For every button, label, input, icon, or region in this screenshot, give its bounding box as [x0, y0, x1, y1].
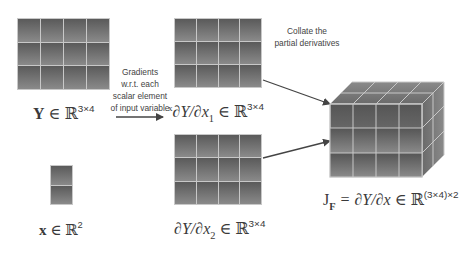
label-jacobian: JF = ∂Y/∂x ∈ ℝ(3×4)×2	[323, 189, 459, 212]
label-in: ∈	[395, 191, 407, 208]
label-expr: = ∂Y/∂x	[340, 191, 391, 208]
label-J-sub: F	[329, 201, 335, 212]
collate-arrow-top	[263, 80, 330, 104]
label-dims: (3×4)×2	[424, 189, 459, 200]
jacobian-cube	[330, 82, 444, 177]
diagram-svg	[0, 0, 470, 254]
collate-arrow-bottom	[263, 141, 330, 158]
label-set: ℝ	[411, 190, 424, 209]
